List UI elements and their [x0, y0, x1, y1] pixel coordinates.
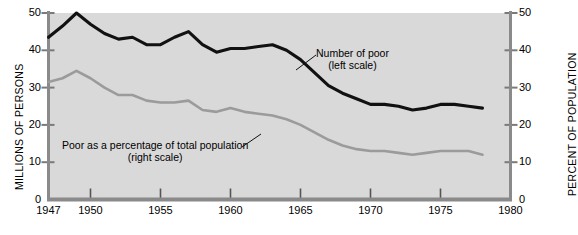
y-tick-label-left: 10 — [19, 155, 41, 167]
annotation-number-of-poor: Number of poor (left scale) — [316, 47, 389, 71]
y-tick-label-right: 50 — [519, 6, 543, 18]
y-tick-label-left: 0 — [19, 193, 41, 205]
x-tick-label: 1960 — [211, 204, 251, 216]
y-tick-label-right: 30 — [519, 81, 543, 93]
x-tick-label: 1950 — [71, 204, 111, 216]
annotation-number-of-poor-subtitle: (left scale) — [316, 59, 389, 71]
y-tick-label-left: 30 — [19, 81, 41, 93]
y-tick-label-right: 20 — [519, 118, 543, 130]
x-tick-label: 1975 — [421, 204, 461, 216]
annotation-percent-of-population: Poor as a percentage of total population… — [62, 139, 248, 163]
x-tick-label: 1970 — [351, 204, 391, 216]
x-tick-label: 1980 — [491, 204, 531, 216]
annotation-number-of-poor-title: Number of poor — [316, 47, 389, 59]
annotation-percent-of-population-title: Poor as a percentage of total population — [62, 139, 248, 151]
y-tick-label-right: 10 — [519, 155, 543, 167]
x-tick-label: 1965 — [281, 204, 321, 216]
y-tick-label-right: 0 — [519, 193, 543, 205]
y-tick-label-right: 40 — [519, 43, 543, 55]
x-tick-label: 1955 — [141, 204, 181, 216]
y-tick-label-left: 40 — [19, 43, 41, 55]
x-tick-label: 1947 — [29, 204, 69, 216]
plot-area-background — [47, 13, 512, 200]
annotation-percent-of-population-subtitle: (right scale) — [62, 151, 248, 163]
y-tick-label-left: 20 — [19, 118, 41, 130]
y-tick-label-left: 50 — [19, 6, 41, 18]
